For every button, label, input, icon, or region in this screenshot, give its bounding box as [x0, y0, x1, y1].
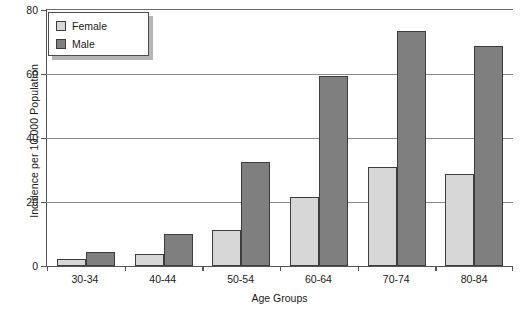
bar-group: [280, 10, 358, 266]
bar-female-70-74[interactable]: [368, 167, 397, 266]
x-tick-label: 40-44: [124, 273, 202, 285]
legend-label: Female: [72, 21, 107, 32]
bar-male-60-64[interactable]: [319, 76, 348, 266]
x-tick-mark: [202, 266, 203, 271]
y-tick-label: 20: [26, 196, 38, 208]
legend-swatch-icon: [56, 39, 66, 49]
x-axis-labels: 30-3440-4450-5460-6470-7480-84: [46, 273, 513, 285]
x-tick-label: 50-54: [202, 273, 280, 285]
x-axis-title: Age Groups: [46, 292, 513, 304]
y-tick-mark: [41, 10, 46, 11]
x-tick-mark: [47, 266, 48, 271]
legend: FemaleMale: [48, 12, 149, 56]
bar-female-50-54[interactable]: [212, 230, 241, 266]
y-tick-label: 60: [26, 68, 38, 80]
bar-male-80-84[interactable]: [474, 46, 503, 266]
bar-female-40-44[interactable]: [135, 254, 164, 266]
x-tick-mark: [435, 266, 436, 271]
bar-female-30-34[interactable]: [57, 259, 86, 266]
x-tick-label: 60-64: [279, 273, 357, 285]
y-tick-mark: [41, 266, 46, 267]
legend-swatch-icon: [56, 21, 66, 31]
legend-label: Male: [72, 39, 95, 50]
bar-male-40-44[interactable]: [164, 234, 193, 266]
bar-group: [202, 10, 280, 266]
y-tick-label: 40: [26, 132, 38, 144]
bar-male-30-34[interactable]: [86, 252, 115, 266]
bar-chart: Incidence per 10,000 Population 02040608…: [0, 0, 525, 309]
bar-female-60-64[interactable]: [290, 197, 319, 266]
x-tick-mark: [125, 266, 126, 271]
x-tick-mark: [512, 266, 513, 271]
bar-group: [358, 10, 436, 266]
legend-item-male[interactable]: Male: [56, 36, 141, 52]
x-tick-mark: [280, 266, 281, 271]
x-tick-mark: [358, 266, 359, 271]
legend-item-female[interactable]: Female: [56, 18, 141, 34]
bar-male-70-74[interactable]: [397, 31, 426, 266]
x-tick-label: 80-84: [435, 273, 513, 285]
bar-male-50-54[interactable]: [241, 162, 270, 266]
bar-group: [435, 10, 513, 266]
y-tick-label: 80: [26, 4, 38, 16]
x-tick-label: 70-74: [357, 273, 435, 285]
y-tick-label: 0: [32, 260, 38, 272]
x-tick-label: 30-34: [46, 273, 124, 285]
bar-female-80-84[interactable]: [445, 174, 474, 266]
